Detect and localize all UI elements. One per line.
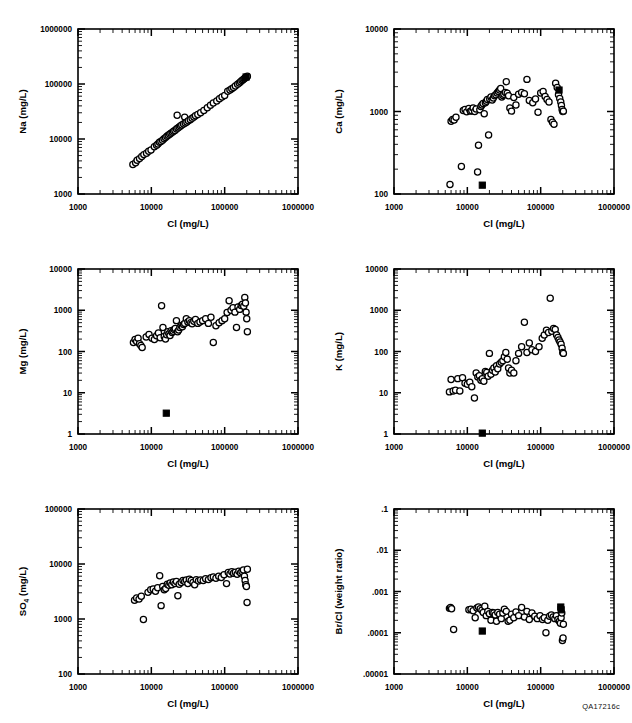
x-axis-label: Cl (mg/L) [167, 698, 209, 709]
data-point-open-circle [222, 316, 228, 322]
y-tick-labels: 110100100010000 [365, 265, 388, 439]
x-tick-label: 1000000 [282, 683, 314, 692]
data-point-open-circle [519, 344, 525, 350]
y-tick-label: 100000 [45, 80, 73, 89]
axis-ticks [394, 509, 614, 674]
data-point-filled-square [243, 74, 249, 80]
y-tick-label: .01 [377, 546, 389, 555]
data-point-open-circle [536, 344, 542, 350]
y-tick-label: .1 [381, 505, 388, 514]
panel-na-vs-cl: 1000100001000001000000100010000100000100… [0, 4, 316, 244]
data-point-open-circle [233, 324, 239, 330]
data-point-open-circle [521, 91, 527, 97]
data-points [131, 566, 250, 622]
data-points [130, 73, 251, 167]
data-point-open-circle [453, 114, 459, 120]
y-tick-labels: .00001.0001.001.01.1 [363, 505, 388, 679]
y-axis-label: Br/Cl (weight ratio) [333, 549, 344, 635]
x-tick-label: 1000000 [598, 443, 630, 452]
y-axis-label: Mg (mg/L) [17, 329, 28, 375]
data-point-open-circle [208, 314, 214, 320]
y-tick-labels: 110100100010000 [49, 265, 72, 439]
panel-k-vs-cl: 1000100001000001000000110100100010000Cl … [316, 244, 632, 484]
y-tick-label: 100 [58, 348, 72, 357]
y-tick-label: 1000 [370, 306, 389, 315]
y-tick-labels: 100100010000100000 [45, 505, 73, 679]
data-point-open-circle [457, 388, 463, 394]
x-tick-label: 1000 [385, 203, 404, 212]
data-point-open-circle [524, 76, 530, 82]
x-tick-label: 10000 [140, 203, 163, 212]
data-point-open-circle [175, 593, 181, 599]
data-points [447, 76, 567, 188]
data-point-filled-square [558, 607, 564, 613]
x-tick-label: 10000 [456, 683, 479, 692]
data-point-open-circle [560, 108, 566, 114]
data-points [130, 294, 250, 416]
x-tick-label: 1000 [69, 443, 88, 452]
figure-id-label: QA17216c [582, 702, 620, 711]
data-points [446, 603, 566, 643]
data-point-open-circle [244, 316, 250, 322]
data-point-open-circle [508, 108, 514, 114]
plot-ca-vs-cl: 1000100001000001000000100100010000Cl (mg… [316, 4, 632, 244]
data-point-open-circle [472, 615, 478, 621]
y-tick-label: 1000 [370, 108, 389, 117]
x-tick-label: 1000000 [282, 203, 314, 212]
data-point-filled-square [479, 430, 485, 436]
plot-frame [78, 29, 298, 194]
y-tick-label: 100 [374, 190, 388, 199]
data-point-open-circle [503, 349, 509, 355]
data-point-open-circle [451, 626, 457, 632]
data-point-open-circle [140, 616, 146, 622]
data-point-open-circle [560, 635, 566, 641]
y-axis-label: K (mg/L) [333, 332, 344, 371]
data-point-open-circle [513, 102, 519, 108]
y-tick-label: 1000 [54, 190, 73, 199]
y-axis-label: Na (mg/L) [17, 89, 28, 133]
x-tick-labels: 1000100001000001000000 [385, 203, 630, 212]
x-tick-labels: 1000100001000001000000 [69, 683, 314, 692]
x-tick-label: 10000 [456, 203, 479, 212]
data-point-open-circle [243, 309, 249, 315]
y-tick-label: 10000 [365, 265, 388, 274]
x-tick-label: 100000 [211, 683, 239, 692]
x-axis-label: Cl (mg/L) [167, 218, 209, 229]
panel-so4-vs-cl: 1000100001000001000000100100010000100000… [0, 484, 316, 723]
y-tick-label: 10 [63, 389, 73, 398]
data-point-open-circle [503, 79, 509, 85]
x-tick-labels: 1000100001000001000000 [69, 203, 314, 212]
x-tick-labels: 1000100001000001000000 [385, 443, 630, 452]
axis-ticks [78, 29, 298, 194]
data-point-open-circle [242, 300, 248, 306]
x-tick-label: 100000 [527, 203, 555, 212]
y-tick-label: 10000 [49, 135, 72, 144]
data-point-open-circle [486, 132, 492, 138]
data-point-open-circle [546, 99, 552, 105]
figure-root: 1000100001000001000000100010000100000100… [0, 0, 632, 723]
data-point-open-circle [223, 581, 229, 587]
plot-frame [394, 509, 614, 674]
data-point-open-circle [173, 318, 179, 324]
x-tick-label: 100000 [527, 443, 555, 452]
x-tick-label: 1000000 [598, 683, 630, 692]
x-tick-label: 10000 [456, 443, 479, 452]
data-point-open-circle [551, 121, 557, 127]
y-tick-label: 10000 [365, 25, 388, 34]
plot-frame [394, 29, 614, 194]
panel-ca-vs-cl: 1000100001000001000000100100010000Cl (mg… [316, 4, 632, 244]
data-point-open-circle [458, 163, 464, 169]
data-point-open-circle [244, 599, 250, 605]
x-tick-label: 1000000 [282, 443, 314, 452]
data-point-open-circle [474, 169, 480, 175]
panel-brcl-vs-cl: 1000100001000001000000.00001.0001.001.01… [316, 484, 632, 723]
data-point-open-circle [158, 303, 164, 309]
x-tick-label: 1000 [385, 443, 404, 452]
plot-frame [78, 509, 298, 674]
y-tick-labels: 1000100001000001000000 [40, 25, 72, 199]
y-tick-label: .001 [372, 588, 388, 597]
data-point-open-circle [543, 630, 549, 636]
y-tick-label: 10000 [49, 560, 72, 569]
y-tick-label: 1000 [54, 306, 73, 315]
data-point-open-circle [481, 111, 487, 117]
